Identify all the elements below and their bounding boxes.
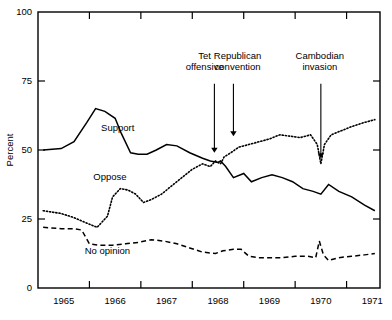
annotation-label-tet-offensive: Tet [198,50,211,61]
y-tick-label: 75 [21,75,32,86]
x-tick-label: 1968 [207,295,228,306]
series-label-no-opinion: No opinion [85,245,130,256]
x-tick-label: 1966 [105,295,126,306]
x-tick-label: 1971 [362,295,383,306]
y-tick-label: 0 [27,282,32,293]
series-label-support: Support [101,122,135,133]
chart-canvas: 02550751001965196619671968196919701971Pe… [0,0,392,320]
series-label-oppose: Oppose [93,171,126,182]
x-tick-label: 1969 [259,295,280,306]
annotation-label-cambodian-invasion: invasion [302,61,337,72]
x-tick-label: 1970 [310,295,331,306]
annotation-arrowhead-tet-offensive [211,148,217,153]
x-tick-label: 1967 [156,295,177,306]
poll-trend-chart: 02550751001965196619671968196919701971Pe… [0,0,392,320]
x-tick-label: 1965 [53,295,74,306]
annotation-label-republican-convention: convention [215,61,261,72]
annotation-arrowhead-republican-convention [230,131,236,136]
annotation-label-republican-convention: Republican [214,50,262,61]
y-axis-title: Percent [4,133,15,166]
annotation-label-cambodian-invasion: Cambodian [296,50,345,61]
series-line-support [43,109,375,211]
y-tick-label: 25 [21,213,32,224]
y-tick-label: 100 [16,6,32,17]
y-tick-label: 50 [21,144,32,155]
